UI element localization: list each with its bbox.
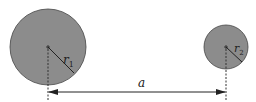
- circle-2: r2: [204, 25, 248, 69]
- two-circles-diagram: r1 r2 a: [0, 0, 256, 102]
- distance-label: a: [138, 76, 145, 90]
